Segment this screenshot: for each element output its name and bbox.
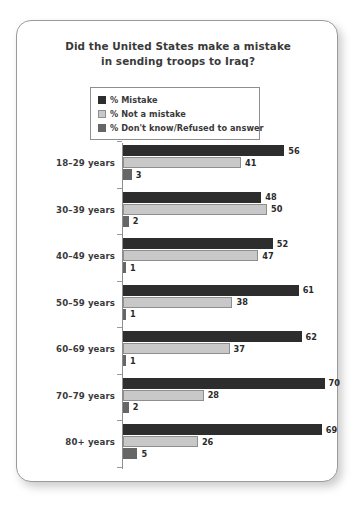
bar-group: 60–69 years62371 <box>17 331 339 366</box>
bar <box>123 436 198 447</box>
category-label: 70–79 years <box>17 391 115 401</box>
bar-group: 40–49 years52471 <box>17 238 339 273</box>
bar <box>123 192 261 203</box>
bar-row: 41 <box>123 157 256 168</box>
bar-row: 37 <box>123 343 245 354</box>
bar <box>123 250 258 261</box>
bar-value-label: 37 <box>234 344 245 354</box>
bar <box>123 390 204 401</box>
screenshot-root: Did the United States make a mistake in … <box>0 0 361 518</box>
bar <box>123 169 132 180</box>
bar-row: 48 <box>123 192 277 203</box>
bar-row: 69 <box>123 424 337 435</box>
bar <box>123 448 137 459</box>
bar <box>123 145 284 156</box>
bar <box>123 297 232 308</box>
bar-row: 2 <box>123 216 138 227</box>
bar-group: 18–29 years56413 <box>17 145 339 180</box>
chart-card: Did the United States make a mistake in … <box>16 20 338 482</box>
bar-value-label: 3 <box>136 170 142 180</box>
axis-tick <box>117 374 122 375</box>
bar <box>123 216 129 227</box>
bar-row: 1 <box>123 262 136 273</box>
bar-row: 1 <box>123 309 136 320</box>
bar-row: 61 <box>123 285 314 296</box>
axis-tick <box>117 281 122 282</box>
bar <box>123 378 325 389</box>
axis-tick <box>117 467 122 468</box>
axis-tick <box>117 188 122 189</box>
bar-value-label: 26 <box>202 437 213 447</box>
bar-value-label: 52 <box>277 239 288 249</box>
bar-value-label: 5 <box>141 449 147 459</box>
bar-row: 47 <box>123 250 274 261</box>
bar-row: 52 <box>123 238 288 249</box>
category-label: 30–39 years <box>17 205 115 215</box>
bar-row: 50 <box>123 204 282 215</box>
category-label: 80+ years <box>17 437 115 447</box>
category-label: 40–49 years <box>17 251 115 261</box>
bar <box>123 285 299 296</box>
bar-group: 30–39 years48502 <box>17 192 339 227</box>
bar-value-label: 41 <box>245 158 256 168</box>
bar-value-label: 48 <box>265 192 276 202</box>
bar-row: 5 <box>123 448 147 459</box>
bar <box>123 424 322 435</box>
bar-value-label: 2 <box>133 402 139 412</box>
bar-value-label: 50 <box>271 204 282 214</box>
bar-group: 50–59 years61381 <box>17 285 339 320</box>
bar-value-label: 70 <box>329 378 340 388</box>
bar-group: 70–79 years70282 <box>17 378 339 413</box>
bar-row: 3 <box>123 169 141 180</box>
bar <box>123 238 273 249</box>
bar <box>123 157 241 168</box>
bar-value-label: 56 <box>288 146 299 156</box>
bar-value-label: 28 <box>208 390 219 400</box>
bar-value-label: 47 <box>262 251 273 261</box>
axis-tick <box>117 327 122 328</box>
bar <box>123 343 230 354</box>
bar-row: 26 <box>123 436 213 447</box>
category-label: 50–59 years <box>17 298 115 308</box>
axis-tick <box>117 420 122 421</box>
bar <box>123 331 302 342</box>
bar-row: 28 <box>123 390 219 401</box>
axis-tick <box>117 141 122 142</box>
bar <box>123 355 126 366</box>
bar-row: 1 <box>123 355 136 366</box>
bar-value-label: 1 <box>130 263 136 273</box>
bar-value-label: 1 <box>130 356 136 366</box>
category-label: 60–69 years <box>17 344 115 354</box>
axis-tick <box>117 234 122 235</box>
bar-value-label: 1 <box>130 309 136 319</box>
bar <box>123 402 129 413</box>
bar-row: 2 <box>123 402 138 413</box>
bar-value-label: 61 <box>303 285 314 295</box>
bar-value-label: 69 <box>326 425 337 435</box>
bar-row: 62 <box>123 331 317 342</box>
bar <box>123 309 126 320</box>
bar <box>123 262 126 273</box>
bar <box>123 204 267 215</box>
bar-value-label: 2 <box>133 216 139 226</box>
chart-plot-area: 18–29 years5641330–39 years4850240–49 ye… <box>17 21 339 483</box>
bar-row: 56 <box>123 145 300 156</box>
bar-group: 80+ years69265 <box>17 424 339 459</box>
bar-value-label: 38 <box>236 297 247 307</box>
bar-row: 70 <box>123 378 340 389</box>
bar-row: 38 <box>123 297 248 308</box>
category-label: 18–29 years <box>17 158 115 168</box>
bar-value-label: 62 <box>306 332 317 342</box>
